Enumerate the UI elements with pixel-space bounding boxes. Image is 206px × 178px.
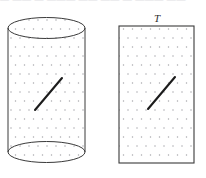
figure-container: — —— — ——— —— —— — ——— —— bbox=[0, 0, 206, 178]
rectangle-label-T: T bbox=[154, 12, 161, 24]
geometry-figure: T bbox=[0, 0, 206, 178]
